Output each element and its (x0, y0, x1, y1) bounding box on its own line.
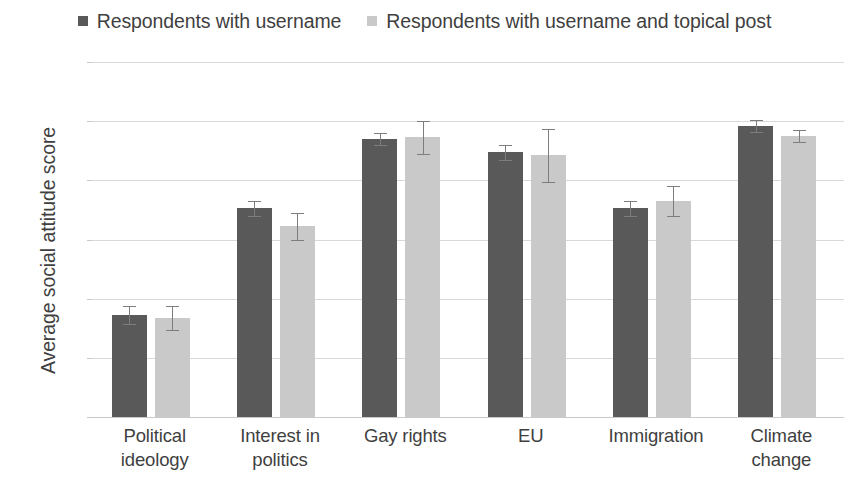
error-bar-cap-lower (667, 216, 680, 217)
bar (155, 318, 190, 417)
category-label-line: Immigration (593, 424, 718, 448)
legend-label-series-2: Respondents with username and topical po… (386, 10, 771, 32)
bar (280, 226, 315, 417)
error-bar-line (673, 186, 674, 216)
error-bar-cap-lower (750, 132, 763, 133)
error-bar-cap-lower (166, 330, 179, 331)
bar (362, 139, 397, 417)
bar (781, 136, 816, 417)
error-bar-line (548, 129, 549, 182)
bar-group (92, 62, 217, 417)
error-bar-cap-upper (374, 133, 387, 134)
error-bar-cap-lower (374, 145, 387, 146)
category-label-line: politics (217, 448, 342, 472)
legend-entry-respondents-with-username-and-topical-post: Respondents with username and topical po… (367, 10, 771, 32)
x-axis-baseline (88, 417, 844, 418)
error-bar-line (505, 145, 506, 160)
legend-label-series-1: Respondents with username (97, 10, 342, 32)
error-bar-cap-upper (291, 213, 304, 214)
error-bar-cap-upper (166, 306, 179, 307)
error-bar-cap-upper (542, 129, 555, 130)
error-bar-line (254, 201, 255, 216)
category-label: EU (468, 424, 593, 448)
bar-chart-figure: Respondents with username Respondents wi… (0, 0, 849, 500)
category-label-line: Climate (719, 424, 844, 448)
category-label: Immigration (593, 424, 718, 448)
error-bar-line (756, 120, 757, 132)
error-bar-cap-lower (624, 216, 637, 217)
category-label-line: Interest in (217, 424, 342, 448)
error-bar-cap-lower (417, 154, 430, 155)
category-label-line: Gay rights (343, 424, 468, 448)
plot-area: 024681012 PoliticalideologyInterest inpo… (92, 62, 844, 417)
bar (613, 208, 648, 417)
bar (738, 126, 773, 417)
error-bar-line (297, 213, 298, 240)
error-bar-cap-lower (291, 240, 304, 241)
bar-group (719, 62, 844, 417)
bar (488, 152, 523, 417)
error-bar-line (172, 306, 173, 330)
error-bar-cap-lower (499, 160, 512, 161)
legend-swatch-series-1 (78, 16, 88, 26)
error-bar-cap-upper (417, 121, 430, 122)
bar (656, 201, 691, 417)
error-bar-line (423, 121, 424, 154)
error-bar-line (380, 133, 381, 145)
error-bar-cap-upper (667, 186, 680, 187)
error-bar-cap-upper (750, 120, 763, 121)
error-bar-cap-lower (248, 216, 261, 217)
error-bar-cap-upper (624, 201, 637, 202)
error-bar-cap-upper (123, 306, 136, 307)
bar-group (343, 62, 468, 417)
bar-group (593, 62, 718, 417)
bar-group (217, 62, 342, 417)
error-bar-cap-lower (793, 142, 806, 143)
legend-entry-respondents-with-username: Respondents with username (78, 10, 342, 32)
category-label-line: Political (92, 424, 217, 448)
error-bar-cap-lower (542, 182, 555, 183)
bar (531, 155, 566, 417)
category-label-line: change (719, 448, 844, 472)
error-bar-cap-lower (123, 324, 136, 325)
bar (237, 208, 272, 417)
error-bar-line (799, 130, 800, 142)
chart-legend: Respondents with username Respondents wi… (0, 6, 849, 36)
error-bar-cap-upper (793, 130, 806, 131)
category-label-line: EU (468, 424, 593, 448)
category-label: Politicalideology (92, 424, 217, 472)
category-label: Interest inpolitics (217, 424, 342, 472)
category-label-line: ideology (92, 448, 217, 472)
legend-swatch-series-2 (367, 16, 377, 26)
category-label: Climatechange (719, 424, 844, 472)
bar (405, 137, 440, 417)
error-bar-cap-upper (499, 145, 512, 146)
category-label: Gay rights (343, 424, 468, 448)
y-axis-title: Average social attitude score (37, 51, 60, 451)
bar (112, 315, 147, 417)
error-bar-cap-upper (248, 201, 261, 202)
error-bar-line (129, 306, 130, 324)
error-bar-line (630, 201, 631, 216)
bar-group (468, 62, 593, 417)
